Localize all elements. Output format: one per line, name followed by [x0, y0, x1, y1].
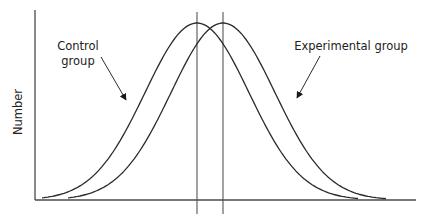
y-axis-label: Number [11, 89, 25, 135]
control-label-line1: Control [57, 39, 99, 53]
control-arrow [101, 57, 126, 100]
distribution-chart: Number Control group Experimental group [0, 0, 431, 219]
control-label-line2: group [61, 54, 94, 68]
experimental-arrow [297, 56, 320, 98]
experimental-label: Experimental group [294, 39, 408, 53]
